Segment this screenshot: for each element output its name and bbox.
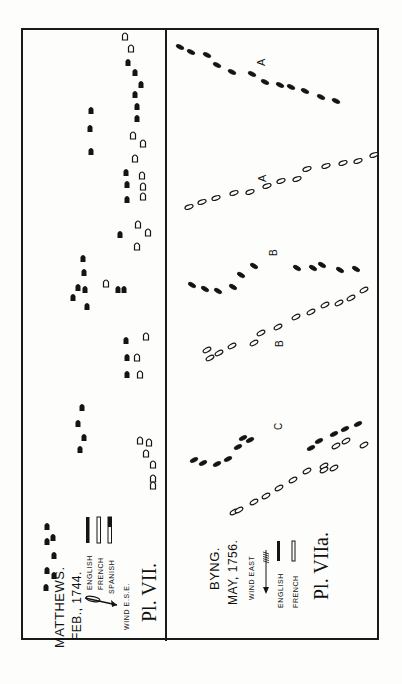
french-ship-icon (151, 461, 156, 468)
french-ship-icon (359, 441, 368, 449)
english-ship-icon (314, 437, 323, 444)
french-ship-icon (329, 464, 338, 472)
english-ship-icon (316, 93, 325, 100)
legend-spanish-fill-icon (108, 517, 112, 527)
french-ship-icon (214, 349, 223, 356)
french-ship-icon (104, 280, 109, 287)
matthews-title: MATTHEWS. (52, 566, 67, 648)
french-ship-icon (144, 450, 149, 457)
english-ship-icon (124, 169, 129, 176)
french-ship-icon (321, 163, 330, 170)
french-ship-icon (144, 333, 149, 340)
french-ship-icon (135, 243, 140, 250)
french-ship-icon (256, 329, 265, 336)
french-ship-icon (234, 506, 243, 514)
english-ship-icon (76, 420, 81, 427)
english-ship-icon (331, 97, 340, 104)
byng-title: BYNG. (207, 547, 222, 590)
annotation-b-english: B (268, 249, 279, 256)
byng-wind-arrowhead-icon (263, 587, 269, 594)
english-ship-icon (200, 285, 209, 293)
byng-date: MAY, 1756. (226, 540, 240, 605)
french-ship-icon (141, 140, 146, 147)
english-ship-icon (135, 115, 140, 122)
legend-english-label: ENGLISH (86, 555, 93, 590)
french-ship-icon (274, 484, 283, 492)
english-ship-icon (213, 287, 222, 295)
matthews-date: FEB., 1744. (70, 571, 84, 640)
english-ship-icon (260, 78, 269, 85)
english-ship-icon (340, 425, 349, 432)
french-ship-icon (249, 498, 258, 506)
english-ship-icon (186, 48, 195, 55)
english-ship-icon (126, 59, 131, 66)
english-ship-icon (175, 43, 184, 50)
english-ship-icon (83, 286, 88, 293)
legend-french-label: FRENCH (97, 557, 104, 590)
english-ship-icon (125, 354, 130, 361)
english-ship-icon (82, 434, 87, 441)
french-ship-icon (302, 166, 311, 173)
french-ship-icon (135, 354, 140, 361)
french-ship-icon (292, 176, 301, 183)
french-ship-icon (273, 323, 282, 330)
english-ship-icon (82, 269, 87, 276)
french-ship-icon (359, 286, 368, 293)
english-ship-icon (249, 262, 258, 270)
english-ship-icon (329, 430, 338, 437)
english-ship-icon (308, 264, 317, 272)
english-ship-icon (88, 125, 93, 132)
english-ship-icon (116, 286, 121, 293)
english-ship-icon (187, 281, 196, 289)
english-ship-icon (236, 271, 245, 279)
english-ship-icon (286, 83, 295, 90)
french-ship-icon (151, 475, 156, 482)
french-ship-icon (211, 195, 220, 202)
english-ship-icon (118, 231, 123, 238)
byng-plate-number: Pl. VIIa. (310, 532, 333, 600)
english-ship-icon (135, 103, 140, 110)
french-ship-icon (302, 467, 311, 475)
english-ship-icon (353, 420, 362, 427)
french-ship-icon (320, 301, 329, 308)
french-ship-icon (261, 492, 270, 500)
english-ship-icon (189, 456, 198, 463)
french-ship-icon (245, 189, 254, 196)
french-ship-icon (131, 132, 136, 139)
english-ship-icon (81, 255, 86, 262)
english-ship-icon (139, 81, 144, 88)
naval-battle-plate: MATTHEWS. FEB., 1744. ENGLISH FRENCH SPA… (0, 0, 402, 684)
english-ship-icon (122, 286, 127, 293)
legend-english-bar-icon (86, 517, 90, 543)
english-ship-icon (78, 446, 83, 453)
annotation-c: C (273, 422, 284, 430)
english-ship-icon (125, 371, 130, 378)
english-ship-icon (85, 303, 90, 310)
english-ship-icon (89, 148, 94, 155)
french-ship-icon (262, 183, 271, 190)
french-ship-icon (229, 190, 238, 197)
byng-legend-french-bar-icon (292, 541, 295, 561)
english-ship-icon (317, 261, 326, 269)
english-ship-icon (45, 523, 50, 530)
english-ship-icon (71, 294, 76, 301)
french-ship-icon (151, 482, 156, 489)
matthews-wind-label: WIND E.S.E. (123, 583, 130, 630)
french-ship-icon (202, 346, 211, 353)
english-ship-icon (227, 68, 236, 75)
french-ship-icon (276, 178, 285, 185)
french-ship-icon (331, 442, 340, 450)
french-ship-icon (138, 437, 143, 444)
wind-arrowhead-icon (111, 600, 117, 607)
french-ship-icon (123, 33, 128, 40)
legend-french-bar-icon (97, 517, 101, 543)
french-ship-icon (141, 183, 146, 190)
english-ship-icon (125, 181, 130, 188)
english-ship-icon (133, 91, 138, 98)
legend-spanish-label: SPANISH (108, 560, 115, 594)
french-ship-icon (136, 221, 141, 228)
byng-wind-label: WIND EAST (248, 556, 255, 600)
english-ship-icon (44, 584, 49, 591)
french-ship-icon (146, 229, 151, 236)
english-ship-icon (247, 70, 256, 77)
